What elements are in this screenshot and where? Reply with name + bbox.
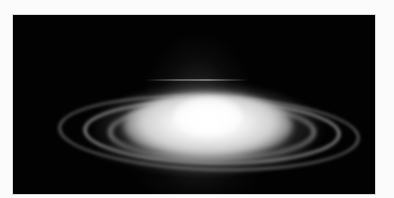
nucleus	[173, 97, 243, 137]
horizontal-streak	[145, 79, 249, 81]
photo-frame	[12, 14, 376, 195]
